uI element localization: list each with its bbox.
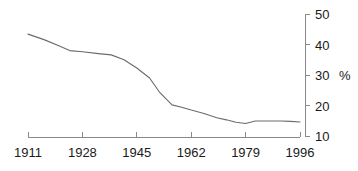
x-axis-tick-label: 1945 xyxy=(122,146,151,159)
x-axis-tick-label: 1996 xyxy=(286,146,315,159)
x-axis-tick-label: 1979 xyxy=(231,146,260,159)
y-axis-tick-label: 10 xyxy=(315,130,329,143)
y-axis xyxy=(305,14,310,136)
x-axis xyxy=(28,132,300,137)
line-chart: 191119281945196219791996 1020304050 % xyxy=(0,0,358,171)
x-axis-tick-label: 1962 xyxy=(177,146,206,159)
y-axis-tick-label: 40 xyxy=(315,38,329,51)
x-axis-tick-label: 1911 xyxy=(14,146,42,159)
y-axis-tick-label: 50 xyxy=(315,8,329,21)
y-axis-tick-label: 20 xyxy=(315,99,329,112)
x-axis-ticks xyxy=(28,132,300,137)
data-series-line xyxy=(28,34,300,123)
y-axis-unit-label: % xyxy=(339,68,351,83)
y-axis-tick-label: 30 xyxy=(315,69,329,82)
x-axis-tick-label: 1928 xyxy=(68,146,97,159)
y-axis-ticks xyxy=(305,14,310,136)
